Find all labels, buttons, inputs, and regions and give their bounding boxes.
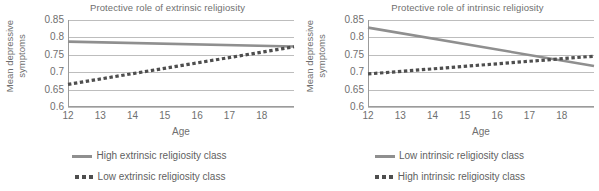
- y-axis-tick-label: 0.65: [324, 85, 364, 95]
- x-axis-tick-label: 14: [423, 110, 443, 121]
- x-axis-tick-label: 17: [519, 110, 539, 121]
- x-axis-tick-label: 16: [187, 110, 207, 121]
- plot-area: [368, 20, 594, 107]
- series-line: [368, 56, 594, 74]
- figure-two-panel-line-charts: Protective role of extrinsic religiosity…: [0, 0, 599, 191]
- y-axis-tick-label: 0.75: [324, 50, 364, 60]
- x-axis-tick-label: 17: [219, 110, 239, 121]
- series-lines: [368, 20, 594, 107]
- chart-title: Protective role of extrinsic religiosity: [40, 2, 295, 13]
- chart-panel-intrinsic: Protective role of intrinsic religiosity…: [300, 0, 599, 191]
- x-axis-tick-label: 18: [552, 110, 572, 121]
- y-axis-tick-label: 0.65: [24, 85, 64, 95]
- y-axis-tick-label: 0.8: [24, 32, 64, 42]
- legend-item: High intrinsic religiosity class: [300, 166, 599, 187]
- y-axis-label-line1: Mean depressive: [304, 20, 315, 92]
- y-axis-label-line1: Mean depressive: [4, 20, 15, 92]
- x-axis-tick-label: 16: [487, 110, 507, 121]
- series-line: [68, 42, 294, 47]
- y-axis-tick-label: 0.7: [24, 67, 64, 77]
- x-axis-tick-label: 13: [390, 110, 410, 121]
- series-line: [68, 47, 294, 85]
- y-axis-ticks: 0.60.650.70.750.80.85: [324, 20, 364, 107]
- chart-panel-extrinsic: Protective role of extrinsic religiosity…: [0, 0, 299, 191]
- legend-item: High extrinsic religiosity class: [0, 145, 299, 166]
- x-axis-ticks: 12131415161718: [368, 110, 594, 124]
- legend: High extrinsic religiosity class Low ext…: [0, 145, 299, 187]
- y-axis-tick-label: 0.75: [24, 50, 64, 60]
- legend-label: High intrinsic religiosity class: [398, 171, 525, 182]
- legend-key-dotted-line-icon: [74, 172, 94, 182]
- x-axis-tick-label: 15: [155, 110, 175, 121]
- legend: Low intrinsic religiosity class High int…: [300, 145, 599, 187]
- legend-item: Low intrinsic religiosity class: [300, 145, 599, 166]
- x-axis-tick-label: 12: [58, 110, 78, 121]
- x-axis-tick-label: 13: [90, 110, 110, 121]
- chart-title: Protective role of intrinsic religiosity: [340, 2, 595, 13]
- y-axis-tick-label: 0.8: [324, 32, 364, 42]
- x-axis-tick-label: 15: [455, 110, 475, 121]
- y-axis-ticks: 0.60.650.70.750.80.85: [24, 20, 64, 107]
- x-axis-label: Age: [68, 126, 294, 137]
- gridline: [368, 107, 594, 108]
- legend-key-dotted-line-icon: [374, 172, 394, 182]
- legend-label: High extrinsic religiosity class: [96, 150, 226, 161]
- legend-label: Low extrinsic religiosity class: [98, 171, 226, 182]
- x-axis-tick-label: 18: [252, 110, 272, 121]
- gridline: [68, 107, 294, 108]
- x-axis-tick-label: 12: [358, 110, 378, 121]
- x-axis-label: Age: [368, 126, 594, 137]
- x-axis-tick-label: 14: [123, 110, 143, 121]
- y-axis-tick-label: 0.7: [324, 67, 364, 77]
- y-axis-tick-label: 0.85: [24, 15, 64, 25]
- y-axis-tick-label: 0.85: [324, 15, 364, 25]
- legend-key-solid-line-icon: [375, 151, 395, 161]
- legend-label: Low intrinsic religiosity class: [399, 150, 524, 161]
- plot-area: [68, 20, 294, 107]
- legend-key-solid-line-icon: [72, 151, 92, 161]
- x-axis-ticks: 12131415161718: [68, 110, 294, 124]
- series-lines: [68, 20, 294, 107]
- legend-item: Low extrinsic religiosity class: [0, 166, 299, 187]
